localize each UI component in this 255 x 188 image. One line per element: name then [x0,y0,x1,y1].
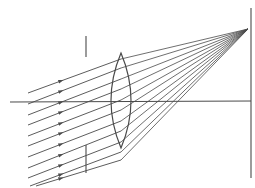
incident-ray [28,110,121,146]
converging-ray [121,29,248,79]
incident-ray [28,79,121,115]
arrow-icon [58,111,64,115]
ray-arrow-icons [58,80,64,181]
arrow-icon [58,80,64,83]
incident-ray [28,59,121,93]
converging-ray [121,29,248,121]
arrow-icon [58,132,64,136]
converging-ray [121,29,248,110]
incident-ray [30,152,121,186]
incident-ray [28,68,121,104]
incident-ray [28,142,121,178]
converging-rays [121,29,248,160]
arrow-icon [58,177,64,180]
arrow-icon [58,101,64,105]
incident-ray [28,89,121,125]
arrow-icon [58,164,64,168]
arrow-icon [58,154,64,158]
converging-ray [121,29,248,100]
converging-ray [121,29,248,152]
arrow-icon [58,143,64,147]
incident-ray [28,121,121,157]
incident-ray [36,160,121,186]
incident-parallel-rays [28,59,121,186]
incident-ray [28,100,121,136]
ray-diagram-canvas [0,0,255,188]
optics-diagram: Oblique parallel rays focused by a conve… [0,0,255,188]
incident-ray [28,131,121,168]
arrow-icon [58,90,64,94]
arrow-icon [58,122,64,126]
converging-ray [121,29,248,142]
arrow-icon [58,174,64,178]
